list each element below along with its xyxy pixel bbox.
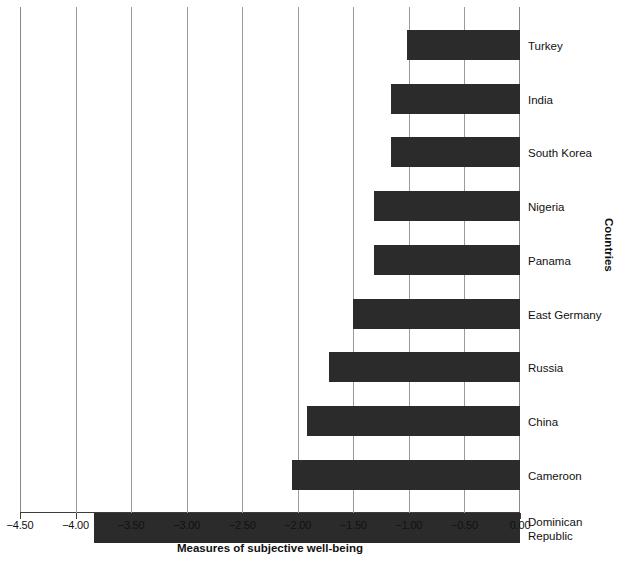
bar [391,84,520,114]
x-axis-title: Measures of subjective well-being [0,542,540,554]
category-label: Turkey [528,39,563,53]
axis-frame-left [20,7,21,513]
gridline [187,7,188,513]
bar [307,406,520,436]
category-label: Dominican Republic [528,515,582,543]
y-axis-title: Countries [603,218,615,272]
x-tick-label: −4.50 [7,519,34,531]
gridline [353,7,354,513]
x-tick-label: −4.00 [62,519,89,531]
gridline [76,7,77,513]
bar [353,299,520,329]
x-tick-label: −3.00 [173,519,200,531]
bar [374,191,520,221]
category-label: Nigeria [528,200,564,214]
bar [391,137,520,167]
category-label: South Korea [528,146,592,160]
category-label: Cameroon [528,469,582,483]
plot-area [20,7,520,513]
category-label: China [528,415,558,429]
x-tick-label: −0.50 [451,519,478,531]
bar [292,460,520,490]
gridline [242,7,243,513]
figure: −4.50−4.00−3.50−3.00−2.50−2.00−1.50−1.00… [0,0,625,566]
x-tick-label: −1.50 [340,519,367,531]
gridline [131,7,132,513]
figure-caption-partial [8,556,158,565]
bar [407,30,520,60]
bar [329,352,520,382]
x-tick-label: −2.50 [229,519,256,531]
x-tick-label: −3.50 [118,519,145,531]
category-label: Panama [528,254,571,268]
category-label: East Germany [528,308,602,322]
x-tick-label: −1.00 [395,519,422,531]
category-label: India [528,93,553,107]
category-label: Russia [528,361,563,375]
gridline [298,7,299,513]
x-tick-label: −2.00 [284,519,311,531]
bar [374,245,520,275]
